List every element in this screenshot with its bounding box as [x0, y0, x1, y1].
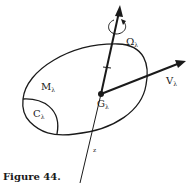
velocity-arrowhead: [175, 60, 186, 68]
axis-tick: [103, 67, 111, 68]
center-of-mass-point: [98, 91, 104, 97]
angular-velocity-arrowhead: [115, 5, 123, 17]
figure-44: Ωλ Vλ Mλ Cλ Gλ z Figure 44.: [0, 0, 194, 191]
figure-caption: Figure 44.: [3, 171, 61, 182]
omega-label: Ωλ: [126, 36, 138, 48]
center-label: Gλ: [97, 98, 109, 110]
mass-label: Mλ: [41, 81, 55, 93]
angular-velocity-vector: [101, 12, 119, 94]
velocity-label: Vλ: [165, 75, 177, 87]
contact-label: Cλ: [33, 108, 45, 120]
z-axis-label: z: [93, 146, 96, 153]
